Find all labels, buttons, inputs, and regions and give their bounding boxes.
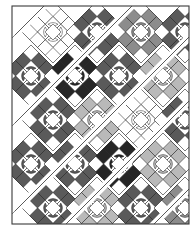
edge-mask-right [189,0,195,230]
quilt-canvas [0,0,195,230]
edge-mask-bottom [0,224,195,230]
edge-mask-top [0,0,195,6]
quilt-diagram [0,0,195,230]
edge-mask-left [0,0,12,230]
